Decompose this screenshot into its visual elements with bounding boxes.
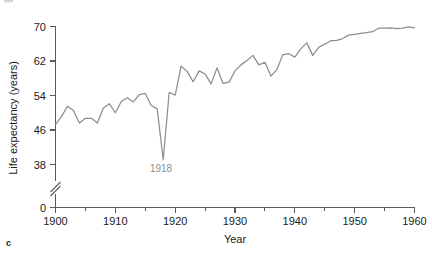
x-axis-major-ticks — [56, 208, 415, 214]
y-axis-title: Life expectancy (years) — [7, 61, 19, 175]
y-axis-break-icon — [51, 181, 61, 196]
life-expectancy-series-line — [56, 27, 415, 160]
x-tick-label-1930: 1930 — [223, 215, 247, 227]
y-tick-label-0: 0 — [40, 202, 46, 214]
y-axis-ticks — [50, 27, 56, 208]
y-tick-label-46: 46 — [34, 124, 46, 136]
x-tick-label-1950: 1950 — [342, 215, 366, 227]
series-group — [56, 27, 415, 160]
panel-label-c: c — [6, 238, 11, 248]
x-tick-label-1940: 1940 — [283, 215, 307, 227]
y-tick-label-62: 62 — [34, 55, 46, 67]
x-axis-title: Year — [224, 233, 247, 245]
life-expectancy-line-chart: 70 62 54 46 38 0 Life expectancy (years) — [0, 0, 432, 258]
y-tick-label-70: 70 — [34, 21, 46, 33]
figure-panel: 70 62 54 46 38 0 Life expectancy (years) — [0, 0, 432, 258]
annotation-1918: 1918 — [150, 163, 173, 174]
x-tick-label-1910: 1910 — [103, 215, 127, 227]
y-tick-label-38: 38 — [34, 159, 46, 171]
x-tick-label-1960: 1960 — [402, 215, 426, 227]
x-tick-label-1900: 1900 — [43, 215, 67, 227]
x-axis: 1900 1910 1920 1930 1940 1950 1960 Year — [43, 208, 426, 246]
x-tick-label-1920: 1920 — [163, 215, 187, 227]
y-axis: 70 62 54 46 38 0 Life expectancy (years) — [7, 21, 61, 214]
y-tick-label-54: 54 — [34, 90, 46, 102]
